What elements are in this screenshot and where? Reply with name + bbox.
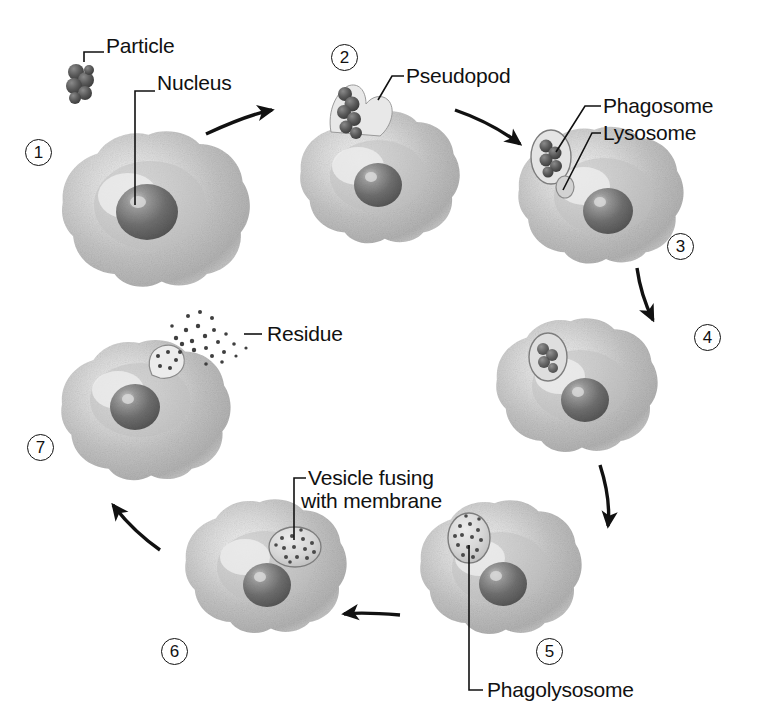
nucleus-stage-4 [561, 378, 609, 422]
label-vesicle-fusing-line2: with membrane [301, 489, 442, 513]
label-particle: Particle [106, 34, 174, 58]
label-residue: Residue [267, 322, 343, 346]
nucleus-stage-5 [479, 562, 527, 606]
cell-stage-7 [61, 310, 247, 480]
nucleus-stage-2 [354, 163, 402, 207]
cell-stage-2 [300, 85, 460, 243]
step-number-7: 7 [27, 434, 54, 461]
step-number-6: 6 [161, 638, 188, 665]
phagocytosis-diagram: Particle Nucleus Pseudopod Phagosome Lys… [0, 0, 762, 722]
arrow-4-to-5 [600, 465, 609, 526]
cell-stage-6 [185, 499, 346, 633]
label-phagolysosome: Phagolysosome [487, 678, 634, 702]
nucleus-stage-7 [110, 384, 160, 430]
arrow-1-to-2 [206, 110, 272, 134]
leader-particle [84, 52, 104, 62]
exocytosis-vesicle-stage-7 [149, 345, 184, 378]
arrow-6-to-7 [113, 505, 160, 550]
step-number-4: 4 [694, 324, 721, 351]
cell-stage-4 [496, 318, 657, 452]
step-number-5: 5 [536, 638, 563, 665]
particle-stage-1 [66, 64, 94, 104]
label-lysosome: Lysosome [603, 121, 696, 145]
step-number-1: 1 [25, 139, 52, 166]
label-pseudopod: Pseudopod [406, 64, 510, 88]
nucleus-stage-3 [583, 188, 633, 234]
arrow-2-to-3 [455, 110, 520, 144]
nucleus-stage-6 [243, 563, 291, 607]
arrow-5-to-6 [344, 613, 400, 615]
step-number-2: 2 [331, 44, 358, 71]
label-nucleus: Nucleus [157, 71, 231, 95]
label-vesicle-fusing-line1: Vesicle fusing [308, 466, 434, 490]
cell-stage-3 [518, 127, 683, 264]
step-number-3: 3 [667, 233, 694, 260]
arrow-3-to-4 [637, 268, 653, 320]
nucleus-stage-1 [116, 184, 178, 240]
cell-stage-1 [62, 131, 250, 287]
cell-stage-5 [420, 500, 581, 634]
label-phagosome: Phagosome [603, 94, 713, 118]
